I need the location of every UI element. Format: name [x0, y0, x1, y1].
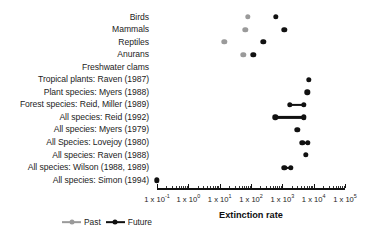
row-label: Mammals	[0, 23, 149, 36]
row-plot-area	[157, 111, 345, 124]
x-axis-minor-tick	[277, 186, 278, 188]
row-plot-area	[157, 48, 345, 61]
chart-row: All species: Raven (1988)	[0, 149, 373, 162]
x-axis-minor-tick	[340, 186, 341, 188]
legend-label-past: Past	[84, 217, 101, 227]
row-label: All species: Simon (1994)	[0, 174, 149, 187]
row-plot-area	[157, 161, 345, 174]
row-plot-area	[157, 36, 345, 49]
x-axis-minor-tick	[336, 186, 337, 188]
x-axis-minor-tick	[210, 186, 211, 188]
x-axis-minor-tick	[213, 186, 214, 188]
x-axis-tick-label: 1 x 105	[333, 193, 357, 204]
x-axis-minor-tick	[242, 186, 243, 188]
future-data-point	[251, 52, 256, 57]
future-data-point	[154, 177, 159, 182]
future-data-point	[306, 77, 311, 82]
chart-row: All species: Simon (1994)	[0, 174, 373, 187]
chart-row: Plant species: Myers (1988)	[0, 86, 373, 99]
past-data-point	[243, 27, 248, 32]
future-marker-icon	[106, 219, 125, 226]
chart-row: All species: Wilson (1988, 1989)	[0, 161, 373, 174]
chart-row: Anurans	[0, 48, 373, 61]
future-data-point	[288, 165, 293, 170]
future-data-point	[301, 102, 306, 107]
row-plot-area	[157, 149, 345, 162]
chart-row: Forest species: Reid, Miller (1989)	[0, 98, 373, 111]
x-axis-minor-tick	[338, 186, 339, 188]
chart-row: All Species: Lovejoy (1980)	[0, 136, 373, 149]
x-axis-minor-tick	[176, 186, 177, 188]
row-label: All Species: Lovejoy (1980)	[0, 136, 149, 149]
future-data-point	[295, 127, 300, 132]
past-data-point	[222, 39, 227, 44]
x-axis-major-tick	[314, 184, 315, 188]
future-data-point	[261, 39, 266, 44]
chart-row: Freshwater clams	[0, 61, 373, 74]
x-axis-minor-tick	[215, 186, 216, 188]
row-label: Birds	[0, 11, 149, 24]
x-axis-minor-tick	[235, 186, 236, 188]
x-axis-minor-tick	[292, 186, 293, 188]
x-axis-title: Extinction rate	[157, 210, 345, 220]
x-axis-minor-tick	[301, 186, 302, 188]
legend-item-future: Future	[106, 217, 152, 227]
future-data-point	[303, 152, 308, 157]
row-label: Plant species: Myers (1988)	[0, 86, 149, 99]
x-axis-major-tick	[188, 184, 189, 188]
x-axis-major-tick	[345, 184, 346, 188]
x-axis-minor-tick	[333, 186, 334, 188]
x-axis-minor-tick	[297, 186, 298, 188]
future-data-point	[305, 90, 310, 95]
x-axis-minor-tick	[181, 186, 182, 188]
row-label: Tropical plants: Raven (1987)	[0, 73, 149, 86]
past-data-point	[245, 14, 250, 19]
row-label: All species: Myers (1979)	[0, 123, 149, 136]
row-plot-area	[157, 61, 345, 74]
chart-row: Reptiles	[0, 36, 373, 49]
row-plot-area	[157, 136, 345, 149]
x-axis-minor-tick	[198, 186, 199, 188]
x-axis-minor-tick	[304, 186, 305, 188]
x-axis-minor-tick	[207, 186, 208, 188]
x-axis-minor-tick	[307, 186, 308, 188]
x-axis-minor-tick	[270, 186, 271, 188]
chart-row: All species: Myers (1979)	[0, 123, 373, 136]
chart-row: All species: Reid (1992)	[0, 111, 373, 124]
x-axis-tick-labels: 1 x 10-11 x 1001 x 1011 x 1021 x 1031 x …	[0, 193, 373, 207]
future-data-point	[273, 115, 278, 120]
x-axis-minor-tick	[260, 186, 261, 188]
row-label: Anurans	[0, 48, 149, 61]
x-axis-minor-tick	[246, 186, 247, 188]
row-plot-area	[157, 123, 345, 136]
past-marker-icon	[62, 219, 81, 226]
row-label: Forest species: Reid, Miller (1989)	[0, 98, 149, 111]
row-label: All species: Wilson (1988, 1989)	[0, 161, 149, 174]
legend-label-future: Future	[128, 217, 152, 227]
future-range-bar	[275, 116, 303, 118]
x-axis-minor-tick	[244, 186, 245, 188]
chart-legend: Past Future	[62, 215, 152, 229]
x-axis-tick-label: 1 x 10-1	[144, 193, 169, 204]
row-plot-area	[157, 98, 345, 111]
x-axis-minor-tick	[203, 186, 204, 188]
x-axis-major-tick	[282, 184, 283, 188]
x-axis-major-tick	[157, 184, 158, 188]
x-axis-minor-tick	[323, 186, 324, 188]
x-axis-minor-tick	[266, 186, 267, 188]
row-label: Reptiles	[0, 36, 149, 49]
row-plot-area	[157, 11, 345, 24]
chart-row: Tropical plants: Raven (1987)	[0, 73, 373, 86]
x-axis-minor-tick	[172, 186, 173, 188]
row-plot-area	[157, 73, 345, 86]
x-axis-tick-label: 1 x 100	[176, 193, 200, 204]
row-plot-area	[157, 86, 345, 99]
future-data-point	[299, 140, 304, 145]
extinction-rate-chart: BirdsMammalsReptilesAnuransFreshwater cl…	[0, 0, 373, 237]
x-axis-line	[157, 188, 345, 190]
x-axis-major-tick	[220, 184, 221, 188]
x-axis-tick-label: 1 x 101	[208, 193, 232, 204]
x-axis-tick-label: 1 x 103	[270, 193, 294, 204]
x-axis-minor-tick	[183, 186, 184, 188]
x-axis-minor-tick	[229, 186, 230, 188]
